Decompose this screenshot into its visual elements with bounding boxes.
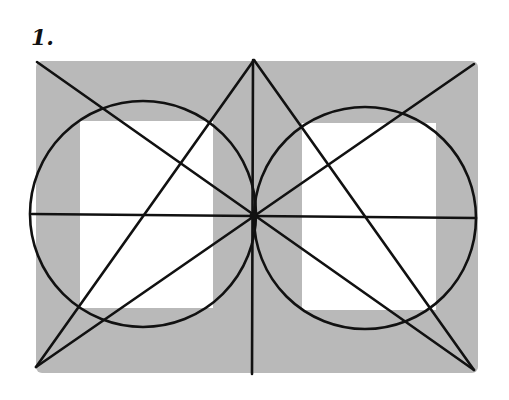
geometric-construction-diagram	[0, 0, 509, 400]
center-point	[250, 213, 257, 220]
